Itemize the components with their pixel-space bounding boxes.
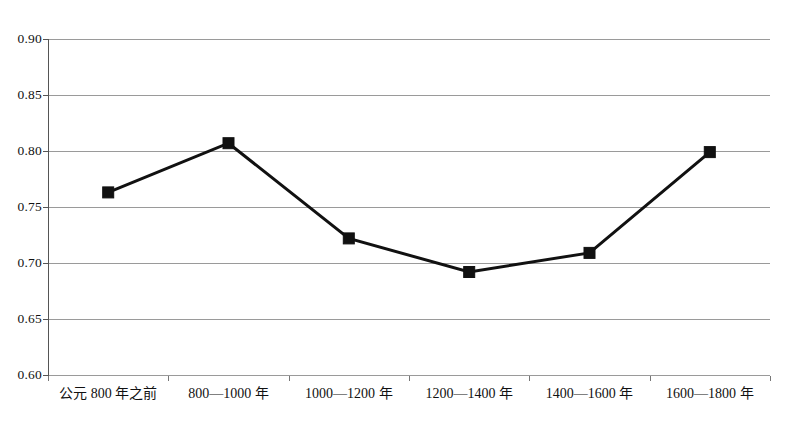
data-point-marker <box>103 187 114 198</box>
line-chart: 0.900.850.800.750.700.650.60 公元 800 年之前8… <box>0 0 803 424</box>
data-point-marker <box>464 267 475 278</box>
data-point-marker <box>584 247 595 258</box>
data-point-marker <box>343 233 354 244</box>
data-point-marker <box>704 147 715 158</box>
data-series-svg <box>0 0 803 424</box>
series-line <box>108 143 710 272</box>
data-point-marker <box>223 138 234 149</box>
